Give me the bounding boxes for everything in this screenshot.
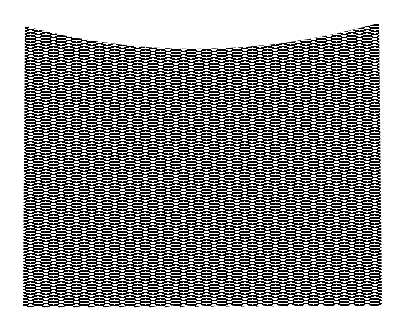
artboard: Moire Diamond Weave Two dense families o…	[0, 0, 401, 327]
moire-pattern-figure: Moire Diamond Weave	[0, 0, 401, 327]
